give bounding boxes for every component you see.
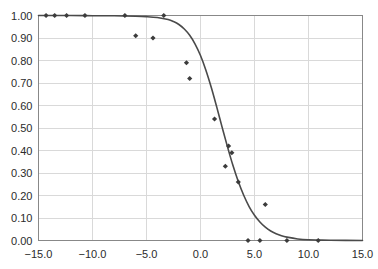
- x-tick-label: 0.0: [193, 248, 208, 260]
- y-tick-label: 0.70: [11, 77, 32, 89]
- y-tick-label: 0.30: [11, 167, 32, 179]
- x-axis-tick-labels: −15.0−10.0−5.00.05.010.015.0: [25, 248, 374, 260]
- y-tick-label: 0.00: [11, 235, 32, 247]
- y-tick-label: 0.10: [11, 212, 32, 224]
- data-point: [161, 13, 166, 18]
- y-tick-label: 0.60: [11, 100, 32, 112]
- data-point: [284, 238, 289, 243]
- y-tick-label: 0.90: [11, 32, 32, 44]
- data-point: [82, 13, 87, 18]
- y-axis-tick-labels: 0.000.100.200.300.400.500.600.700.800.90…: [11, 10, 32, 247]
- data-point: [122, 13, 127, 18]
- data-point: [257, 238, 262, 243]
- x-tick-label: −10.0: [79, 248, 107, 260]
- x-tick-label: 5.0: [247, 248, 262, 260]
- data-point: [212, 116, 217, 121]
- x-tick-label: −15.0: [25, 248, 53, 260]
- y-tick-label: 0.20: [11, 190, 32, 202]
- x-tick-label: −5.0: [136, 248, 158, 260]
- x-tick-label: 10.0: [298, 248, 319, 260]
- y-tick-label: 0.50: [11, 122, 32, 134]
- data-point: [236, 179, 241, 184]
- scatter-plot: 0.000.100.200.300.400.500.600.700.800.90…: [0, 0, 378, 269]
- x-tick-label: 15.0: [352, 248, 373, 260]
- data-point: [150, 35, 155, 40]
- y-tick-label: 0.80: [11, 55, 32, 67]
- data-point: [43, 13, 48, 18]
- data-point: [245, 238, 250, 243]
- chart-container: 0.000.100.200.300.400.500.600.700.800.90…: [0, 0, 378, 269]
- data-point: [52, 13, 57, 18]
- y-tick-label: 0.40: [11, 145, 32, 157]
- data-point: [223, 164, 228, 169]
- data-point: [64, 13, 69, 18]
- data-point: [187, 76, 192, 81]
- data-point: [316, 238, 321, 243]
- data-point: [263, 202, 268, 207]
- y-tick-label: 1.00: [11, 10, 32, 22]
